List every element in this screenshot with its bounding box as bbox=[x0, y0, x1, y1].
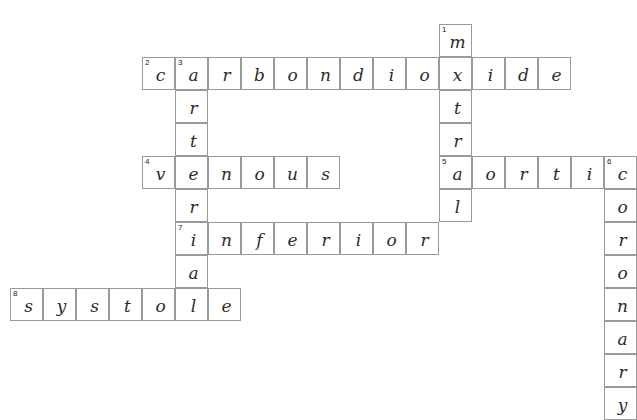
crossword-cell[interactable]: x bbox=[439, 57, 472, 90]
cell-letter: a bbox=[176, 58, 207, 89]
cell-letter: o bbox=[473, 157, 504, 188]
cell-letter: o bbox=[275, 58, 306, 89]
cell-letter: t bbox=[176, 124, 207, 155]
cell-letter: i bbox=[176, 223, 207, 254]
crossword-cell[interactable]: a bbox=[604, 321, 637, 354]
cell-letter: i bbox=[572, 157, 603, 188]
cell-letter: e bbox=[275, 223, 306, 254]
crossword-cell[interactable]: o bbox=[406, 57, 439, 90]
crossword-cell[interactable]: r bbox=[208, 57, 241, 90]
cell-letter: n bbox=[209, 157, 240, 188]
cell-letter: e bbox=[209, 289, 240, 320]
crossword-cell[interactable]: d bbox=[505, 57, 538, 90]
crossword-cell[interactable]: r bbox=[175, 90, 208, 123]
crossword-cell[interactable]: o bbox=[472, 156, 505, 189]
cell-letter: t bbox=[539, 157, 570, 188]
cell-letter: b bbox=[242, 58, 273, 89]
crossword-cell[interactable]: l bbox=[439, 189, 472, 222]
cell-letter: o bbox=[605, 190, 636, 221]
crossword-cell[interactable]: b bbox=[241, 57, 274, 90]
crossword-cell[interactable]: d bbox=[340, 57, 373, 90]
crossword-cell[interactable]: 4v bbox=[142, 156, 175, 189]
crossword-cell[interactable]: f bbox=[241, 222, 274, 255]
crossword-cell[interactable]: e bbox=[175, 156, 208, 189]
crossword-cell[interactable]: n bbox=[604, 288, 637, 321]
crossword-cell[interactable]: n bbox=[208, 222, 241, 255]
crossword-cell[interactable]: n bbox=[208, 156, 241, 189]
cell-letter: i bbox=[473, 58, 504, 89]
crossword-cell[interactable]: r bbox=[307, 222, 340, 255]
crossword-cell[interactable]: r bbox=[175, 189, 208, 222]
cell-letter: r bbox=[176, 91, 207, 122]
cell-letter: x bbox=[440, 58, 471, 89]
crossword-cell[interactable]: i bbox=[340, 222, 373, 255]
crossword-cell[interactable]: i bbox=[472, 57, 505, 90]
cell-letter: y bbox=[44, 289, 75, 320]
crossword-cell[interactable]: o bbox=[241, 156, 274, 189]
cell-letter: t bbox=[110, 289, 141, 320]
crossword-cell[interactable]: o bbox=[142, 288, 175, 321]
cell-letter: f bbox=[242, 223, 273, 254]
crossword-cell[interactable]: e bbox=[208, 288, 241, 321]
cell-letter: o bbox=[605, 256, 636, 287]
crossword-cell[interactable]: t bbox=[175, 123, 208, 156]
cell-letter: c bbox=[143, 58, 174, 89]
crossword-cell[interactable]: a bbox=[175, 255, 208, 288]
cell-letter: s bbox=[308, 157, 339, 188]
crossword-cell[interactable]: i bbox=[373, 57, 406, 90]
crossword-cell[interactable]: r bbox=[505, 156, 538, 189]
crossword-cell[interactable]: o bbox=[274, 57, 307, 90]
crossword-cell[interactable]: y bbox=[43, 288, 76, 321]
cell-letter: r bbox=[506, 157, 537, 188]
crossword-cell[interactable]: r bbox=[604, 222, 637, 255]
cell-letter: a bbox=[605, 322, 636, 353]
cell-letter: a bbox=[440, 157, 471, 188]
crossword-cell[interactable]: 8s bbox=[10, 288, 43, 321]
cell-letter: a bbox=[176, 256, 207, 287]
cell-letter: l bbox=[176, 289, 207, 320]
cell-letter: t bbox=[440, 91, 471, 122]
cell-letter: d bbox=[341, 58, 372, 89]
cell-letter: v bbox=[143, 157, 174, 188]
crossword-cell[interactable]: 3a bbox=[175, 57, 208, 90]
cell-letter: o bbox=[242, 157, 273, 188]
cell-letter: r bbox=[209, 58, 240, 89]
crossword-cell[interactable]: s bbox=[307, 156, 340, 189]
crossword-cell[interactable]: t bbox=[109, 288, 142, 321]
crossword-cell[interactable]: i bbox=[571, 156, 604, 189]
crossword-cell[interactable]: 2c bbox=[142, 57, 175, 90]
crossword-cell[interactable]: 6c bbox=[604, 156, 637, 189]
cell-letter: e bbox=[176, 157, 207, 188]
crossword-cell[interactable]: l bbox=[175, 288, 208, 321]
crossword-cell[interactable]: e bbox=[538, 57, 571, 90]
crossword-cell[interactable]: y bbox=[604, 387, 637, 420]
cell-letter: r bbox=[176, 190, 207, 221]
crossword-cell[interactable]: s bbox=[76, 288, 109, 321]
crossword-cell[interactable]: 7i bbox=[175, 222, 208, 255]
crossword-cell[interactable]: u bbox=[274, 156, 307, 189]
crossword-cell[interactable]: o bbox=[604, 189, 637, 222]
cell-letter: o bbox=[407, 58, 438, 89]
cell-letter: r bbox=[407, 223, 438, 254]
crossword-cell[interactable]: n bbox=[307, 57, 340, 90]
crossword-cell[interactable]: t bbox=[538, 156, 571, 189]
crossword-cell[interactable]: 5a bbox=[439, 156, 472, 189]
crossword-cell[interactable]: o bbox=[373, 222, 406, 255]
crossword-cell[interactable]: o bbox=[604, 255, 637, 288]
cell-letter: n bbox=[209, 223, 240, 254]
cell-letter: i bbox=[341, 223, 372, 254]
cell-letter: o bbox=[374, 223, 405, 254]
cell-letter: e bbox=[539, 58, 570, 89]
cell-letter: n bbox=[605, 289, 636, 320]
crossword-cell[interactable]: r bbox=[406, 222, 439, 255]
cell-letter: o bbox=[143, 289, 174, 320]
cell-letter: i bbox=[374, 58, 405, 89]
crossword-cell[interactable]: r bbox=[439, 123, 472, 156]
crossword-cell[interactable]: r bbox=[604, 354, 637, 387]
crossword-cell[interactable]: 1m bbox=[439, 24, 472, 57]
crossword-cell[interactable]: t bbox=[439, 90, 472, 123]
crossword-cell[interactable]: e bbox=[274, 222, 307, 255]
cell-letter: u bbox=[275, 157, 306, 188]
cell-letter: m bbox=[440, 25, 471, 56]
